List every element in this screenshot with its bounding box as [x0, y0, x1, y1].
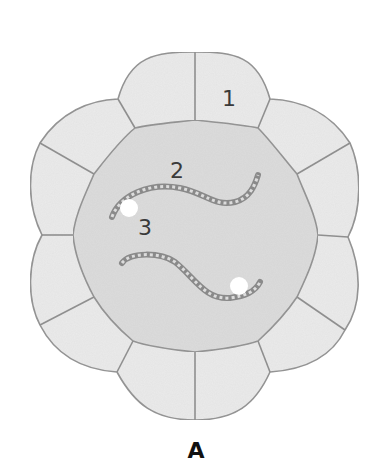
bead-upper [120, 199, 138, 217]
label-2: 2 [170, 160, 184, 182]
cell-diagram: 1 2 3 A [0, 0, 392, 475]
cell-diagram-svg [0, 0, 392, 475]
nucleus [73, 120, 318, 352]
figure-caption: A [187, 438, 204, 463]
bead-lower [230, 277, 248, 295]
label-3: 3 [138, 217, 152, 239]
label-1: 1 [222, 88, 236, 110]
